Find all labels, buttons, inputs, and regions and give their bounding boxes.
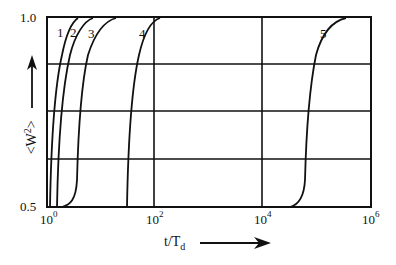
curve-label-1: 1: [57, 26, 64, 39]
x-tick-10e6: 106: [362, 212, 380, 226]
plot-frame: [47, 17, 371, 207]
x-tick-10e0: 100: [40, 212, 58, 226]
curve-3: [62, 18, 116, 207]
y-tick-1.0: 1.0: [20, 11, 36, 24]
x-tick-10e2: 102: [146, 212, 164, 226]
x-tick-10e4: 104: [254, 212, 272, 226]
curve-5: [290, 18, 346, 207]
y-axis-label: <W2>: [22, 120, 41, 154]
curve-4: [127, 18, 160, 207]
y-tick-0.5: 0.5: [20, 200, 36, 213]
curve-2: [57, 18, 93, 207]
curve-label-2: 2: [70, 26, 77, 39]
curve-label-3: 3: [88, 27, 95, 40]
curve-1: [50, 18, 78, 207]
x-axis-label: t/Td: [164, 234, 185, 252]
curve-label-5: 5: [320, 27, 327, 40]
curve-label-4: 4: [139, 27, 146, 40]
